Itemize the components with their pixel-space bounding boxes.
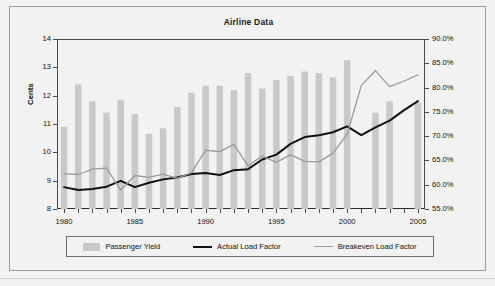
x-axis-tick	[177, 209, 178, 213]
x-axis-tick	[333, 209, 334, 213]
y2-axis-tick-label: 90.0%	[432, 34, 454, 43]
y2-axis-tick	[425, 160, 429, 161]
x-axis-tick	[305, 209, 306, 213]
y-axis-tick-label: 9	[25, 176, 51, 185]
legend-line-swatch-icon	[314, 246, 333, 247]
x-axis-tick	[191, 209, 192, 213]
y2-axis-tick-label: 75.0%	[432, 107, 454, 116]
bar-passenger-yield	[386, 101, 393, 209]
x-axis-tick	[163, 209, 164, 213]
y2-axis-tick-label: 85.0%	[432, 58, 454, 67]
x-axis-tick	[64, 209, 65, 213]
bar-passenger-yield	[259, 89, 266, 209]
y-axis-tick	[53, 39, 57, 40]
bar-passenger-yield	[174, 107, 181, 209]
bar-passenger-yield	[61, 127, 68, 209]
line-breakeven-load-factor	[64, 71, 418, 190]
x-axis-tick	[248, 209, 249, 213]
y2-axis-tick-label: 65.0%	[432, 155, 454, 164]
legend-item-label: Actual Load Factor	[217, 242, 281, 251]
legend-item-label: Passenger Yield	[105, 242, 160, 251]
y2-axis-tick	[425, 112, 429, 113]
x-axis-tick	[220, 209, 221, 213]
y-axis-tick	[53, 209, 57, 210]
bar-passenger-yield	[273, 80, 280, 209]
y-axis-tick-label: 13	[25, 62, 51, 71]
bar-passenger-yield	[217, 86, 224, 209]
chart-title: Airline Data	[10, 17, 487, 27]
bar-passenger-yield	[316, 73, 323, 209]
bar-passenger-yield	[330, 77, 337, 209]
x-axis-tick	[390, 209, 391, 213]
legend-item-label: Breakeven Load Factor	[338, 242, 417, 251]
y-axis-tick-label: 12	[25, 91, 51, 100]
x-axis-tick-label: 2005	[409, 217, 426, 226]
bar-passenger-yield	[245, 73, 252, 209]
bar-passenger-yield	[301, 72, 308, 209]
bar-passenger-yield	[188, 93, 195, 209]
y-axis-tick	[53, 124, 57, 125]
x-axis-tick	[276, 209, 277, 213]
chart-frame: Airline Data Cents Passenger YieldActual…	[9, 6, 486, 271]
x-axis-tick	[135, 209, 136, 213]
x-axis-tick	[319, 209, 320, 213]
bar-passenger-yield	[415, 103, 422, 209]
legend-bar-swatch-icon	[83, 243, 100, 251]
chart-legend: Passenger YieldActual Load FactorBreakev…	[66, 236, 434, 257]
x-axis-tick	[206, 209, 207, 213]
y-axis-tick-label: 8	[25, 204, 51, 213]
bar-passenger-yield	[146, 134, 153, 209]
y2-axis-tick-label: 55.0%	[432, 204, 454, 213]
bar-passenger-yield	[117, 100, 124, 209]
y2-axis-tick	[425, 209, 429, 210]
x-axis-tick	[291, 209, 292, 213]
y-axis-tick	[53, 96, 57, 97]
y2-axis-tick	[425, 185, 429, 186]
x-axis-tick-label: 1980	[56, 217, 73, 226]
plot-wrap	[57, 39, 425, 209]
y2-axis-tick-label: 60.0%	[432, 180, 454, 189]
line-actual-load-factor	[64, 101, 418, 190]
x-axis-tick	[262, 209, 263, 213]
bar-passenger-yield	[132, 114, 139, 209]
x-axis-tick	[404, 209, 405, 213]
y-axis-tick	[53, 67, 57, 68]
x-axis-tick	[375, 209, 376, 213]
bar-passenger-yield	[231, 90, 238, 209]
x-axis-tick	[78, 209, 79, 213]
y-axis-tick-label: 11	[25, 119, 51, 128]
legend-line-swatch-icon	[193, 246, 212, 248]
y-axis-tick	[53, 181, 57, 182]
x-axis-tick	[347, 209, 348, 213]
legend-item-passenger-yield[interactable]: Passenger Yield	[83, 242, 160, 251]
x-axis-tick	[418, 209, 419, 213]
y2-axis-tick-label: 80.0%	[432, 83, 454, 92]
bottom-divider	[0, 278, 495, 279]
y-axis-tick	[53, 152, 57, 153]
x-axis-tick	[361, 209, 362, 213]
y-axis-tick-label: 14	[25, 34, 51, 43]
y2-axis-tick-label: 70.0%	[432, 131, 454, 140]
bar-passenger-yield	[103, 113, 110, 209]
bar-passenger-yield	[160, 128, 167, 209]
x-axis-tick	[121, 209, 122, 213]
chart-canvas: Airline Data Cents Passenger YieldActual…	[0, 0, 495, 286]
y2-axis-tick	[425, 88, 429, 89]
x-axis-tick-label: 2000	[339, 217, 356, 226]
chart-series-layer	[57, 39, 425, 209]
x-axis-tick-label: 1990	[197, 217, 214, 226]
bar-passenger-yield	[202, 86, 209, 209]
x-axis-tick	[234, 209, 235, 213]
x-axis-tick	[92, 209, 93, 213]
y2-axis-tick	[425, 136, 429, 137]
x-axis-tick	[107, 209, 108, 213]
y-axis-tick-label: 10	[25, 147, 51, 156]
y2-axis-tick	[425, 39, 429, 40]
legend-item-actual-load-factor[interactable]: Actual Load Factor	[193, 242, 281, 251]
y2-axis-tick	[425, 63, 429, 64]
x-axis-tick-label: 1985	[126, 217, 143, 226]
x-axis-tick-label: 1995	[268, 217, 285, 226]
legend-item-breakeven-load-factor[interactable]: Breakeven Load Factor	[314, 242, 417, 251]
bar-passenger-yield	[89, 101, 96, 209]
x-axis-tick	[149, 209, 150, 213]
